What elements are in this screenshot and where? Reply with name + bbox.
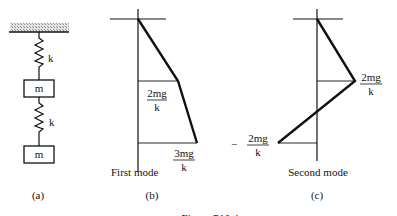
panel-c-second-mode: 2mg k − 2mg k Second mode (c): [231, 9, 382, 202]
svg-text:k: k: [154, 101, 160, 113]
panel-b-first-mode: 2mg k 3mg k First mode (b): [110, 9, 197, 202]
mass-bottom-label: m: [35, 148, 44, 160]
spring-top-label: k: [48, 52, 54, 64]
svg-text:3mg: 3mg: [174, 147, 194, 159]
panel-c-label: (c): [311, 189, 324, 202]
ceiling-support: [10, 23, 69, 32]
panel-a-spring-mass-system: k m k m (a): [9, 23, 69, 202]
value-2mg-over-k: 2mg k: [147, 87, 167, 113]
value-3mg-over-k: 3mg k: [173, 147, 195, 173]
svg-text:2mg: 2mg: [361, 71, 381, 83]
spring-top-icon: [35, 32, 43, 80]
svg-text:−: −: [231, 138, 237, 150]
mass-top-label: m: [35, 82, 44, 94]
figure-caption: Figure P10.4: [182, 212, 239, 216]
panel-b-label: (b): [146, 189, 159, 202]
second-mode-title: Second mode: [288, 166, 348, 178]
spring-bottom-label: k: [49, 116, 55, 128]
svg-text:2mg: 2mg: [147, 87, 167, 99]
svg-text:k: k: [181, 161, 187, 173]
figure-canvas: k m k m (a) 2mg k 3mg k First mode (b): [0, 0, 397, 216]
svg-text:k: k: [255, 146, 261, 158]
svg-text:2mg: 2mg: [248, 132, 268, 144]
panel-a-label: (a): [32, 189, 45, 202]
value-2mg-over-k: 2mg k: [360, 71, 382, 97]
value-minus-2mg-over-k: − 2mg k: [231, 132, 269, 158]
svg-text:k: k: [368, 85, 374, 97]
spring-bottom-icon: [35, 97, 43, 146]
first-mode-title: First mode: [111, 166, 158, 178]
